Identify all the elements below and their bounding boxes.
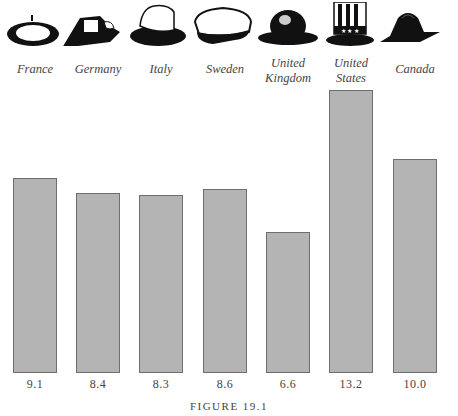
alpine-hat-icon (60, 2, 120, 46)
figure-caption: FIGURE 19.1 (0, 400, 458, 412)
country-label-united-kingdom: United Kingdom (253, 56, 323, 86)
country-label-united-states: United States (316, 56, 386, 86)
bar-france (13, 178, 57, 373)
bar-italy (139, 195, 183, 373)
bar-united-kingdom (266, 232, 310, 373)
bar-canada (393, 159, 437, 373)
country-label-france: France (0, 62, 70, 77)
bar-germany (76, 193, 120, 373)
sailor-cap-icon (193, 2, 253, 46)
beret-icon (5, 2, 65, 46)
country-label-canada: Canada (380, 62, 450, 77)
fedora-icon (128, 2, 188, 46)
value-label-united-states: 13.2 (321, 377, 381, 392)
bowler-hat-icon (258, 2, 318, 46)
country-label-italy: Italy (126, 62, 196, 77)
value-label-sweden: 8.6 (195, 377, 255, 392)
uncle-sam-top-hat-icon: ★ ★ ★ (320, 2, 380, 46)
country-label-germany: Germany (63, 62, 133, 77)
mountie-campaign-hat-icon (380, 2, 440, 46)
country-label-sweden: Sweden (190, 62, 260, 77)
value-label-germany: 8.4 (68, 377, 128, 392)
value-label-united-kingdom: 6.6 (258, 377, 318, 392)
svg-text:★ ★ ★: ★ ★ ★ (341, 27, 360, 34)
value-label-france: 9.1 (5, 377, 65, 392)
value-label-italy: 8.3 (131, 377, 191, 392)
bar-united-states (329, 90, 373, 373)
bar-sweden (203, 189, 247, 373)
value-label-canada: 10.0 (385, 377, 445, 392)
